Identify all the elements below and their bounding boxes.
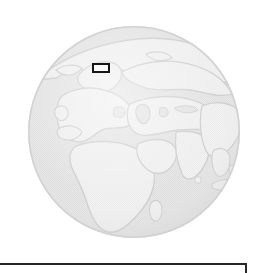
- globe-figure: [26, 20, 242, 246]
- caption-panel: [0, 263, 247, 273]
- location-marker[interactable]: [92, 63, 110, 73]
- globe-illustration: [26, 20, 242, 246]
